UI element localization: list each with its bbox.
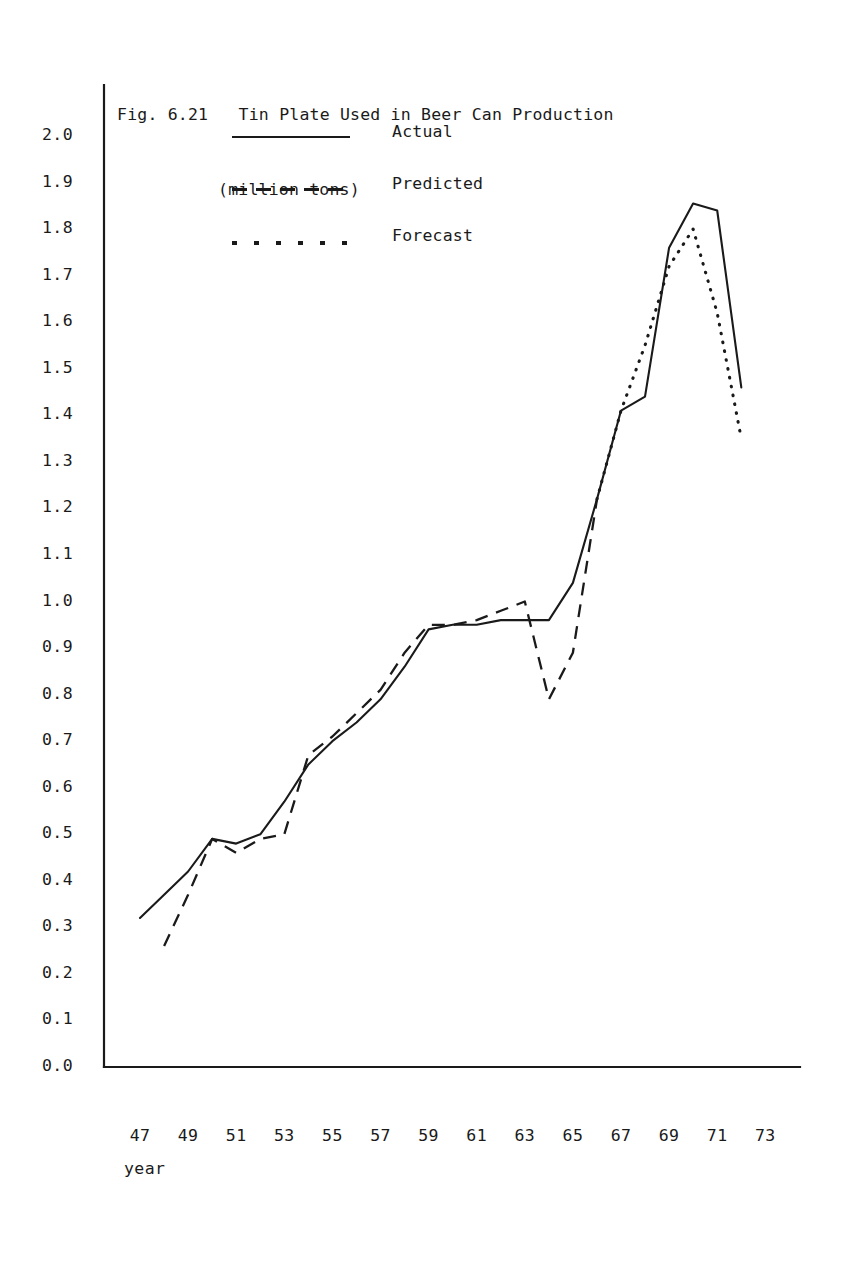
chart-plot-area [0,0,853,1281]
chart-axes [104,85,800,1067]
series-line-actual [140,204,741,919]
series-lines [140,204,741,947]
series-line-predicted [164,499,597,946]
series-line-forecast [597,229,741,499]
figure-container: Fig. 6.21 Tin Plate Used in Beer Can Pro… [0,0,853,1281]
